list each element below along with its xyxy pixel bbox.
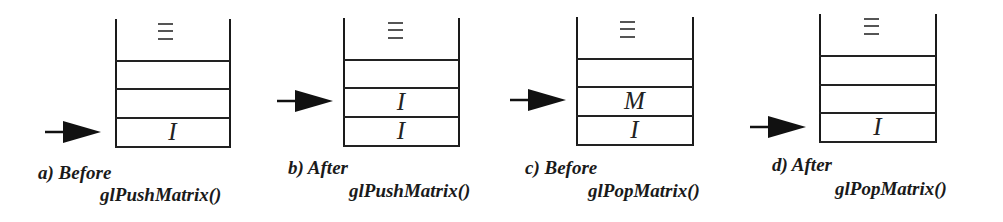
- stack-divider: [819, 55, 936, 57]
- continuation-dash: [864, 33, 879, 35]
- caption-line-2: glPopMatrix(): [835, 179, 947, 199]
- stack-bottom: [819, 141, 936, 143]
- stack-cell-3: I: [820, 113, 935, 141]
- continuation-dash: [864, 25, 879, 27]
- stack-divider: [819, 84, 936, 86]
- stack-right-wall: [935, 14, 937, 143]
- continuation-dash: [864, 18, 879, 20]
- stack-pointer-arrow-icon: [749, 115, 809, 139]
- panel-d-after-pop: I d) After glPopMatrix(): [0, 0, 1003, 222]
- caption-line-1: d) After: [772, 155, 832, 175]
